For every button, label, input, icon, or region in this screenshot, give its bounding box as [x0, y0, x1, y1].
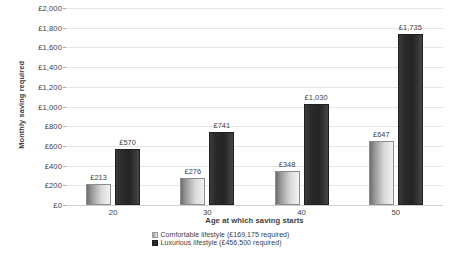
- legend-item-label: Comfortable lifestyle (£169,175 required…: [161, 231, 290, 238]
- bar[interactable]: [209, 132, 234, 205]
- bar-value-label: £276: [184, 167, 201, 176]
- bar[interactable]: [180, 178, 205, 205]
- chart-legend: Comfortable lifestyle (£169,175 required…: [0, 231, 455, 246]
- legend-item-label: Luxurious lifestyle (£456,500 required): [161, 239, 282, 246]
- y-axis-tick-label: £1,600: [38, 43, 62, 52]
- legend-swatch-icon: [152, 232, 158, 238]
- bar-column: £741: [209, 8, 234, 205]
- bar-column: £1,030: [304, 8, 329, 205]
- bar-group-bars: £647£1,735: [349, 8, 443, 205]
- bar[interactable]: [275, 171, 300, 205]
- bar-value-label: £1,735: [399, 23, 422, 32]
- y-axis-tick-label: £800: [45, 122, 62, 131]
- y-axis-tickmark: [63, 205, 66, 206]
- legend-item[interactable]: Luxurious lifestyle (£456,500 required): [152, 239, 304, 246]
- plot-area: £213£57020£276£74130£348£1,03040£647£1,7…: [66, 8, 443, 205]
- bar-group-bars: £213£570: [66, 8, 160, 205]
- y-axis-tick-label: £1,400: [38, 63, 62, 72]
- bar-group-bars: £348£1,030: [255, 8, 349, 205]
- bar-column: £1,735: [398, 8, 423, 205]
- bar[interactable]: [304, 104, 329, 205]
- bar[interactable]: [115, 149, 140, 205]
- bar-group-bars: £276£741: [160, 8, 254, 205]
- bar-group: £348£1,03040: [255, 8, 349, 205]
- y-axis-tick-label: £1,000: [38, 102, 62, 111]
- bar-column: £213: [86, 8, 111, 205]
- bar-chart: Monthly saving required £0£200£400£600£8…: [0, 0, 455, 263]
- bar-column: £348: [275, 8, 300, 205]
- bar-value-label: £213: [90, 173, 107, 182]
- y-axis-tick-label: £1,800: [38, 23, 62, 32]
- bar-column: £276: [180, 8, 205, 205]
- bar-groups: £213£57020£276£74130£348£1,03040£647£1,7…: [66, 8, 443, 205]
- bar-value-label: £570: [119, 138, 136, 147]
- bar-group: £647£1,73550: [349, 8, 443, 205]
- axis-baseline: [66, 205, 443, 206]
- bar-value-label: £348: [279, 160, 296, 169]
- legend-swatch-icon: [152, 240, 158, 246]
- y-axis-tick-label: £1,200: [38, 82, 62, 91]
- bar-value-label: £741: [213, 121, 230, 130]
- x-axis-title: Age at which saving starts: [66, 216, 443, 225]
- legend-item-inner: Luxurious lifestyle (£456,500 required): [152, 239, 304, 246]
- bar-value-label: £1,030: [305, 93, 328, 102]
- y-axis-tick-label: £200: [45, 181, 62, 190]
- bar-column: £570: [115, 8, 140, 205]
- bar-group: £276£74130: [160, 8, 254, 205]
- bar-column: £647: [369, 8, 394, 205]
- y-axis-tick-label: £400: [45, 161, 62, 170]
- y-axis-tick-label: £600: [45, 141, 62, 150]
- y-axis-tick-labels: £0£200£400£600£800£1,000£1,200£1,400£1,6…: [24, 8, 64, 205]
- bar-group: £213£57020: [66, 8, 160, 205]
- bar[interactable]: [398, 34, 423, 205]
- bar[interactable]: [86, 184, 111, 205]
- legend-item-inner: Comfortable lifestyle (£169,175 required…: [152, 231, 304, 238]
- bar[interactable]: [369, 141, 394, 205]
- y-axis-tick-label: £0: [53, 201, 62, 210]
- bar-value-label: £647: [373, 130, 390, 139]
- y-axis-tick-label: £2,000: [38, 4, 62, 13]
- legend-item[interactable]: Comfortable lifestyle (£169,175 required…: [152, 231, 304, 238]
